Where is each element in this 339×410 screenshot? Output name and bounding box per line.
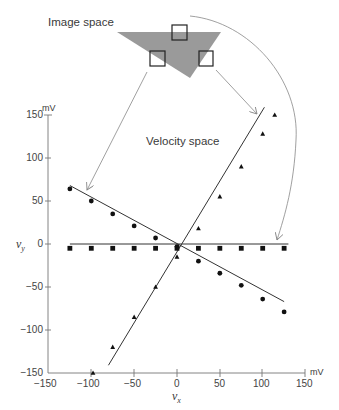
x-axis-label: vx [172, 389, 181, 405]
x-tick-label: 150 [296, 378, 313, 389]
y-axis [44, 115, 52, 373]
circle-marker [132, 224, 137, 229]
x-tick-label: 0 [174, 378, 180, 389]
square-marker [196, 246, 201, 251]
velocity-space-label: Velocity space [146, 135, 220, 147]
circle-marker [196, 259, 201, 264]
triangle-marker [272, 112, 277, 116]
y-tick-label: −50 [26, 281, 43, 292]
y-tick-label: 50 [32, 195, 43, 206]
x-axis-unit: mV [310, 367, 324, 377]
x-tick-label: −50 [124, 378, 141, 389]
circle-marker [153, 236, 158, 241]
x-tick-label: −100 [77, 378, 100, 389]
velocity-space-plot [0, 0, 339, 410]
y-tick-label: 100 [26, 152, 43, 163]
right-box-arrow [216, 70, 257, 114]
y-tick-label: −150 [20, 367, 43, 378]
square-marker [132, 246, 137, 251]
triangle-marker [132, 315, 137, 319]
circle-marker [282, 310, 287, 315]
image-triangle [117, 32, 221, 78]
triangle-marker [260, 131, 265, 135]
square-marker [110, 246, 115, 251]
triangle-marker [239, 164, 244, 168]
y-axis-unit: mV [42, 103, 56, 113]
x-tick-label: −150 [34, 378, 57, 389]
square-marker [282, 246, 287, 251]
circle-marker [89, 199, 94, 204]
left-box-arrow [87, 72, 147, 190]
circle-marker [260, 297, 265, 302]
y-tick-label: 150 [26, 109, 43, 120]
triangle-marker [217, 194, 222, 198]
x-axis-subscript: x [177, 396, 181, 405]
circle-marker [239, 283, 244, 288]
figure: Image space Velocity space vy vx mV mV 1… [0, 0, 339, 410]
triangle-marker [196, 226, 201, 230]
image-space-label: Image space [48, 16, 114, 28]
square-marker [175, 246, 180, 251]
circle-marker [217, 271, 222, 276]
y-axis-subscript: y [21, 244, 25, 253]
square-marker [67, 246, 72, 251]
square-marker [89, 246, 94, 251]
square-marker [153, 246, 158, 251]
circle-marker [110, 212, 115, 217]
circle-marker [67, 187, 72, 192]
x-axis [48, 369, 305, 377]
y-axis-label: vy [16, 237, 25, 253]
x-tick-label: 50 [214, 378, 225, 389]
y-tick-label: −100 [20, 324, 43, 335]
square-marker [260, 246, 265, 251]
x-tick-label: 100 [253, 378, 270, 389]
y-tick-label: 0 [37, 238, 43, 249]
triangle-marker [110, 345, 115, 349]
square-marker [239, 246, 244, 251]
square-marker [217, 246, 222, 251]
